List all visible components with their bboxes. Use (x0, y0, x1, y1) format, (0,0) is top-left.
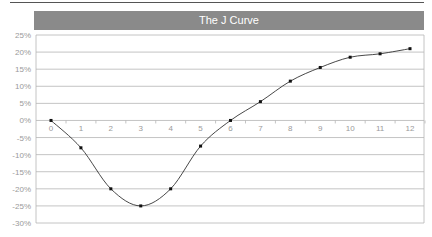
y-tick-label: -30% (12, 219, 31, 228)
data-point-marker (109, 187, 112, 190)
x-tick-label: 6 (228, 124, 233, 133)
data-point-marker (289, 80, 292, 83)
y-tick-label: -10% (12, 151, 31, 160)
x-tick-label: 8 (288, 124, 293, 133)
data-point-marker (409, 47, 412, 50)
x-tick-label: 2 (109, 124, 114, 133)
y-tick-label: 15% (15, 65, 31, 74)
y-tick-label: -15% (12, 168, 31, 177)
y-tick-label: 25% (15, 31, 31, 40)
x-tick-label: 3 (139, 124, 144, 133)
data-point-marker (229, 119, 232, 122)
data-point-marker (139, 204, 142, 207)
y-tick-label: -5% (17, 134, 31, 143)
data-point-marker (50, 119, 53, 122)
x-tick-label: 12 (406, 124, 415, 133)
y-tick-label: 5% (19, 99, 31, 108)
y-tick-label: -20% (12, 185, 31, 194)
x-tick-label: 1 (79, 124, 84, 133)
x-tick-label: 7 (258, 124, 263, 133)
y-tick-label: 10% (15, 82, 31, 91)
data-point-marker (259, 100, 262, 103)
y-axis-ticks: 25%20%15%10%5%0%-5%-10%-15%-20%-25%-30% (12, 31, 31, 228)
x-axis-ticks: 0123456789101112 (49, 120, 425, 133)
data-point-marker (349, 56, 352, 59)
data-point-marker (199, 145, 202, 148)
y-tick-label: 0% (19, 116, 31, 125)
x-tick-label: 4 (168, 124, 173, 133)
data-point-marker (319, 66, 322, 69)
x-tick-label: 5 (198, 124, 203, 133)
x-tick-label: 10 (346, 124, 355, 133)
x-tick-label: 0 (49, 124, 54, 133)
data-point-marker (169, 187, 172, 190)
x-tick-label: 11 (376, 124, 385, 133)
data-point-marker (79, 146, 82, 149)
x-tick-label: 9 (318, 124, 323, 133)
line-chart: 25%20%15%10%5%0%-5%-10%-15%-20%-25%-30% … (0, 0, 432, 237)
y-tick-label: -25% (12, 202, 31, 211)
y-tick-label: 20% (15, 48, 31, 57)
data-point-marker (379, 52, 382, 55)
